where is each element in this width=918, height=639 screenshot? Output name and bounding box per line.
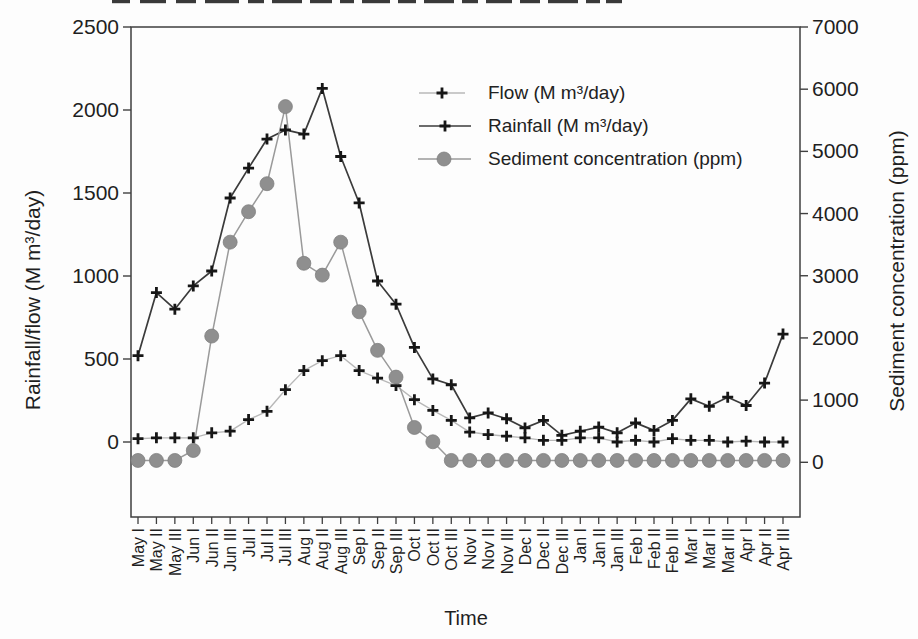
x-tick-label: Sep I bbox=[351, 528, 368, 565]
x-tick-label: Mar I bbox=[683, 528, 700, 564]
circle-marker bbox=[536, 453, 550, 467]
circle-marker bbox=[684, 453, 698, 467]
y-tick-label-right: 6000 bbox=[812, 77, 859, 100]
x-tick-label: Nov III bbox=[499, 528, 516, 574]
circle-marker bbox=[149, 453, 163, 467]
x-tick-label: Jun I bbox=[185, 528, 202, 563]
x-tick-label: Feb I bbox=[628, 528, 645, 564]
circle-marker bbox=[500, 453, 514, 467]
legend-label-rainfall: Rainfall (M m³/day) bbox=[488, 115, 648, 137]
x-tick-label: Oct I bbox=[406, 528, 423, 562]
circle-marker bbox=[315, 268, 329, 282]
x-tick-label: Aug II bbox=[314, 528, 331, 570]
legend-item-sediment: Sediment concentration (ppm) bbox=[416, 147, 743, 171]
x-tick-label: Jul II bbox=[259, 528, 276, 562]
circle-marker bbox=[389, 370, 403, 384]
circle-marker bbox=[278, 100, 292, 114]
flow-line-sample-icon bbox=[416, 84, 474, 102]
x-tick-label: Jan II bbox=[591, 528, 608, 567]
circle-marker bbox=[573, 453, 587, 467]
circle-marker bbox=[186, 443, 200, 457]
y-tick-label-right: 4000 bbox=[812, 202, 859, 225]
circle-marker bbox=[297, 256, 311, 270]
circle-marker bbox=[665, 453, 679, 467]
legend-label-sediment: Sediment concentration (ppm) bbox=[488, 148, 743, 170]
circle-marker bbox=[702, 453, 716, 467]
x-tick-label: Dec I bbox=[517, 528, 534, 565]
legend-item-flow: Flow (M m³/day) bbox=[416, 81, 743, 105]
circle-marker bbox=[776, 453, 790, 467]
x-tick-label: Jun II bbox=[204, 528, 221, 567]
y-tick-label-left: 2500 bbox=[72, 15, 119, 38]
legend-label-flow: Flow (M m³/day) bbox=[488, 82, 625, 104]
y-tick-label-left: 2000 bbox=[72, 98, 119, 121]
circle-marker bbox=[721, 453, 735, 467]
x-tick-label: Dec III bbox=[554, 528, 571, 574]
circle-marker bbox=[131, 453, 145, 467]
circle-marker bbox=[629, 453, 643, 467]
circle-marker bbox=[223, 235, 237, 249]
y-tick-label-left: 500 bbox=[84, 347, 119, 370]
y-tick-label-right: 0 bbox=[812, 450, 824, 473]
x-tick-label: Feb III bbox=[664, 528, 681, 573]
x-tick-label: May II bbox=[148, 528, 165, 572]
circle-marker bbox=[242, 205, 256, 219]
circle-marker bbox=[555, 453, 569, 467]
circle-marker bbox=[444, 453, 458, 467]
x-tick-label: Jan I bbox=[572, 528, 589, 563]
circle-marker bbox=[334, 235, 348, 249]
rainfall-line-sample-icon bbox=[416, 117, 474, 135]
x-tick-label: Apr II bbox=[757, 528, 774, 566]
x-axis: May IMay IIMay IIIJun IJun IIJun IIIJul … bbox=[130, 517, 792, 576]
x-tick-label: Oct III bbox=[443, 528, 460, 571]
legend: Flow (M m³/day) Rainfall (M m³/day) Sedi… bbox=[416, 81, 743, 180]
circle-marker bbox=[168, 453, 182, 467]
x-tick-label: May I bbox=[130, 528, 147, 567]
x-tick-label: Mar III bbox=[720, 528, 737, 573]
legend-item-rainfall: Rainfall (M m³/day) bbox=[416, 114, 743, 138]
y-tick-label-left: 1000 bbox=[72, 264, 119, 287]
x-tick-label: Nov II bbox=[480, 528, 497, 570]
x-tick-label: Aug I bbox=[296, 528, 313, 565]
circle-marker bbox=[407, 420, 421, 434]
x-tick-label: Nov I bbox=[462, 528, 479, 565]
circle-marker bbox=[260, 177, 274, 191]
sediment-line-sample-icon bbox=[416, 150, 474, 168]
circle-marker bbox=[758, 453, 772, 467]
y-tick-label-left: 0 bbox=[107, 430, 119, 453]
right-axis-title: Sediment concentration (ppm) bbox=[885, 130, 909, 411]
circle-marker bbox=[739, 453, 753, 467]
x-axis-title: Time bbox=[444, 607, 488, 630]
y-tick-label-right: 7000 bbox=[812, 15, 859, 38]
left-axis-title: Rainfall/flow (M m³/day) bbox=[21, 190, 45, 411]
y-tick-label-left: 1500 bbox=[72, 181, 119, 204]
circle-marker bbox=[610, 453, 624, 467]
x-tick-label: Jan III bbox=[609, 528, 626, 572]
chart: 2500200015001000500070006000500040003000… bbox=[0, 0, 918, 639]
x-tick-label: Sep III bbox=[388, 528, 405, 574]
x-tick-label: Sep II bbox=[370, 528, 387, 570]
y-axis-left: 25002000150010005000 bbox=[72, 15, 131, 453]
y-tick-label-right: 3000 bbox=[812, 264, 859, 287]
x-tick-label: Oct II bbox=[425, 528, 442, 566]
x-tick-label: Jul III bbox=[277, 528, 294, 566]
circle-marker bbox=[371, 343, 385, 357]
x-tick-label: Feb II bbox=[646, 528, 663, 569]
x-tick-label: Apr III bbox=[775, 528, 792, 571]
x-tick-label: Aug III bbox=[333, 528, 350, 574]
circle-marker bbox=[352, 305, 366, 319]
x-tick-label: Mar II bbox=[701, 528, 718, 569]
x-tick-label: Jul I bbox=[241, 528, 258, 557]
y-tick-label-right: 2000 bbox=[812, 326, 859, 349]
circle-marker bbox=[592, 453, 606, 467]
x-tick-label: Jun III bbox=[222, 528, 239, 572]
circle-marker bbox=[205, 329, 219, 343]
circle-marker bbox=[518, 453, 532, 467]
x-tick-label: Dec II bbox=[535, 528, 552, 570]
circle-marker bbox=[463, 453, 477, 467]
y-tick-label-right: 5000 bbox=[812, 139, 859, 162]
circle-marker bbox=[647, 453, 661, 467]
circle-marker bbox=[481, 453, 495, 467]
y-tick-label-right: 1000 bbox=[812, 388, 859, 411]
x-tick-label: May III bbox=[167, 528, 184, 576]
